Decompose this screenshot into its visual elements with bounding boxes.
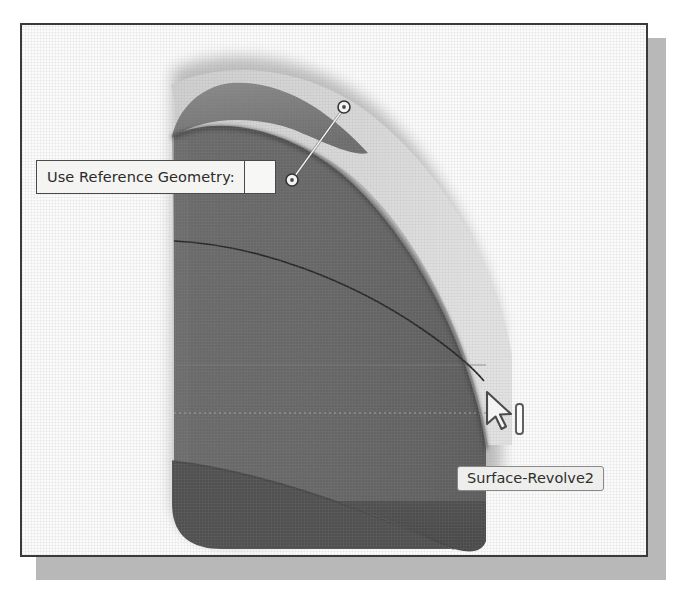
entity-name-tooltip: Surface-Revolve2 bbox=[457, 466, 604, 491]
use-reference-geometry-label: Use Reference Geometry: bbox=[37, 161, 244, 193]
use-reference-geometry-value-field[interactable] bbox=[244, 161, 275, 193]
use-reference-geometry-callout[interactable]: Use Reference Geometry: bbox=[36, 160, 276, 194]
